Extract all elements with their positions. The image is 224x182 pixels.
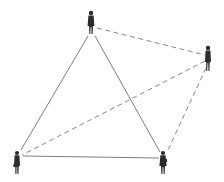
person-icon-bottom-right	[159, 151, 167, 174]
edge-top-bottom-left	[21, 36, 88, 150]
network-diagram	[0, 0, 224, 182]
person-icon-right	[205, 46, 211, 71]
edge-right-bottom-right	[168, 68, 206, 150]
edge-top-right	[97, 28, 205, 55]
edge-right-bottom-left	[22, 61, 205, 155]
edge-top-bottom-right	[95, 36, 160, 152]
person-icon-top	[88, 11, 95, 34]
person-icon-bottom-left	[13, 151, 20, 174]
edge-bottom-left-bottom-right	[23, 156, 159, 158]
